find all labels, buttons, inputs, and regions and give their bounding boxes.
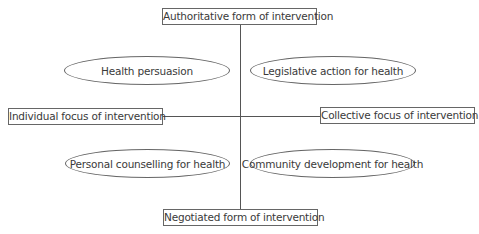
- quadrant-label: Personal counselling for health: [70, 158, 226, 170]
- quadrant-label: Legislative action for health: [263, 65, 403, 77]
- axis-label-individual: Individual focus of intervention: [8, 108, 163, 125]
- quadrant-label: Health persuasion: [101, 65, 193, 77]
- quadrant-community-development: Community development for health: [250, 149, 415, 178]
- vertical-axis-line: [240, 24, 241, 210]
- horizontal-axis-line: [162, 116, 320, 117]
- quadrant-health-persuasion: Health persuasion: [64, 56, 230, 85]
- axis-label-negotiated: Negotiated form of intervention: [163, 209, 318, 226]
- quadrant-personal-counselling: Personal counselling for health: [65, 149, 230, 178]
- quadrant-label: Community development for health: [242, 158, 423, 170]
- quadrant-legislative-action: Legislative action for health: [250, 56, 416, 85]
- axis-label-authoritative: Authoritative form of intervention: [162, 8, 317, 25]
- axis-label-collective: Collective focus of intervention: [320, 107, 475, 124]
